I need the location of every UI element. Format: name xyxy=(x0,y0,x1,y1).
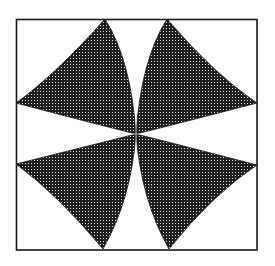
quilt-block-figure xyxy=(0,0,275,266)
